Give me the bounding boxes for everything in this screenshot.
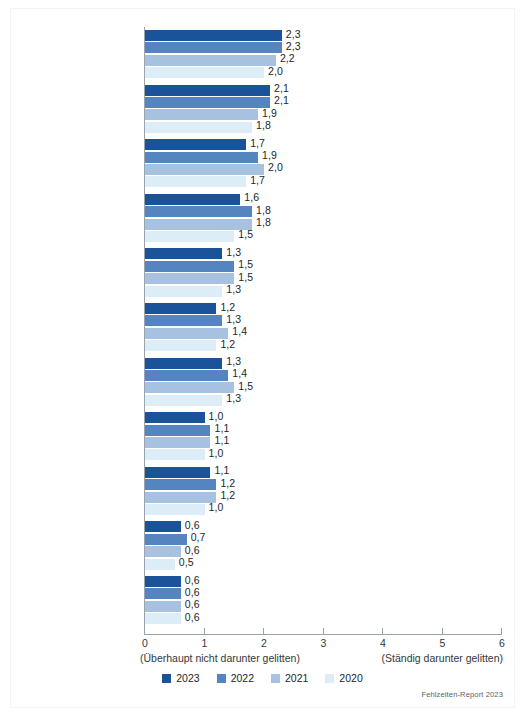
bar-row: 0,5 bbox=[145, 559, 502, 570]
bar-value-label: 1,7 bbox=[250, 137, 265, 149]
bar-value-label: 1,2 bbox=[220, 301, 235, 313]
bar-value-label: 1,5 bbox=[238, 380, 253, 392]
bar-2022 bbox=[145, 206, 252, 217]
bar-chart-plot: 0123456 Erschöpfung2,32,32,22,0Wut und V… bbox=[0, 0, 525, 719]
bar-2023 bbox=[145, 521, 181, 532]
x-tick-0 bbox=[144, 628, 145, 635]
bar-value-label: 2,3 bbox=[286, 40, 301, 52]
bar-2021 bbox=[145, 55, 276, 66]
bar-value-label: 1,3 bbox=[226, 283, 241, 295]
bar-row: 1,0 bbox=[145, 412, 502, 423]
legend-swatch-icon bbox=[271, 674, 280, 683]
bar-value-label: 1,8 bbox=[256, 216, 271, 228]
legend-swatch-icon bbox=[217, 674, 226, 683]
bar-value-label: 0,6 bbox=[185, 519, 200, 531]
bar-2023 bbox=[145, 30, 282, 41]
bar-2021 bbox=[145, 437, 210, 448]
bar-2020 bbox=[145, 559, 175, 570]
bar-row: 1,2 bbox=[145, 492, 502, 503]
bar-2020 bbox=[145, 122, 252, 133]
bar-value-label: 0,6 bbox=[185, 586, 200, 598]
legend-item-2021[interactable]: 2021 bbox=[271, 672, 308, 684]
bar-2020 bbox=[145, 449, 205, 460]
bar-row: 2,0 bbox=[145, 164, 502, 175]
bar-row: 1,1 bbox=[145, 437, 502, 448]
bar-2021 bbox=[145, 601, 181, 612]
bar-2023 bbox=[145, 194, 240, 205]
bar-row: 2,1 bbox=[145, 97, 502, 108]
bar-value-label: 1,9 bbox=[262, 107, 277, 119]
bar-value-label: 1,4 bbox=[232, 367, 247, 379]
bar-2023 bbox=[145, 412, 205, 423]
bar-row: 1,3 bbox=[145, 315, 502, 326]
bar-2021 bbox=[145, 273, 234, 284]
x-tick-label-0: 0 bbox=[142, 637, 148, 649]
legend-label: 2021 bbox=[285, 672, 308, 684]
bar-group: Nervosität und Reizbarkeit1,61,81,81,5 bbox=[145, 194, 502, 244]
bar-value-label: 0,6 bbox=[185, 611, 200, 623]
bar-2021 bbox=[145, 219, 252, 230]
bar-row: 1,1 bbox=[145, 467, 502, 478]
bar-row: 1,3 bbox=[145, 358, 502, 369]
bar-value-label: 1,5 bbox=[238, 258, 253, 270]
bar-row: 1,1 bbox=[145, 425, 502, 436]
chart-figure: 0123456 Erschöpfung2,32,32,22,0Wut und V… bbox=[0, 0, 525, 719]
bar-value-label: 1,1 bbox=[214, 434, 229, 446]
x-tick-label-1: 1 bbox=[202, 637, 208, 649]
bar-group: Magen-Darm- Beschwerden0,60,60,60,6 bbox=[145, 576, 502, 626]
bar-row: 1,3 bbox=[145, 286, 502, 297]
bar-group: Zweifel an den eigenen Fähigkeiten1,01,1… bbox=[145, 412, 502, 462]
bar-row: 2,0 bbox=[145, 67, 502, 78]
bar-2022 bbox=[145, 315, 222, 326]
bar-row: 0,6 bbox=[145, 546, 502, 557]
bar-group: Wut und Verärgerung2,12,11,91,8 bbox=[145, 85, 502, 135]
legend-item-2023[interactable]: 2023 bbox=[162, 672, 199, 684]
bar-value-label: 2,1 bbox=[274, 82, 289, 94]
bar-value-label: 1,0 bbox=[209, 410, 224, 422]
bar-row: 1,8 bbox=[145, 219, 502, 230]
bar-row: 1,9 bbox=[145, 109, 502, 120]
legend-label: 2020 bbox=[339, 672, 362, 684]
bar-value-label: 1,3 bbox=[226, 392, 241, 404]
bar-value-label: 0,6 bbox=[185, 598, 200, 610]
bar-2022 bbox=[145, 425, 210, 436]
bar-value-label: 1,2 bbox=[220, 489, 235, 501]
bar-2023 bbox=[145, 248, 222, 259]
bar-2020 bbox=[145, 286, 222, 297]
bar-row: 2,2 bbox=[145, 55, 502, 66]
bar-value-label: 2,1 bbox=[274, 94, 289, 106]
axis-caption-right: (Ständig darunter gelitten) bbox=[382, 652, 503, 664]
bar-value-label: 1,1 bbox=[214, 422, 229, 434]
bar-row: 2,3 bbox=[145, 30, 502, 41]
bar-value-label: 1,1 bbox=[214, 464, 229, 476]
bar-2023 bbox=[145, 85, 270, 96]
legend-item-2020[interactable]: 2020 bbox=[325, 672, 362, 684]
axis-caption-left: (Überhaupt nicht darunter gelitten) bbox=[140, 652, 300, 664]
bar-group: Angstgefühle bei und vor der Arbeit0,60,… bbox=[145, 521, 502, 571]
x-tick-label-3: 3 bbox=[321, 637, 327, 649]
bar-row: 1,2 bbox=[145, 340, 502, 351]
bar-row: 1,5 bbox=[145, 261, 502, 272]
bar-2021 bbox=[145, 109, 258, 120]
bar-2021 bbox=[145, 382, 234, 393]
legend-item-2022[interactable]: 2022 bbox=[217, 672, 254, 684]
bar-2023 bbox=[145, 467, 210, 478]
bar-2022 bbox=[145, 479, 216, 490]
legend-swatch-icon bbox=[325, 674, 334, 683]
x-tick-1 bbox=[204, 628, 205, 635]
bar-value-label: 0,6 bbox=[185, 544, 200, 556]
chart-legend: 2023202220212020 bbox=[0, 672, 525, 684]
bar-value-label: 2,0 bbox=[268, 65, 283, 77]
bar-group: Niedergeschlagenheit1,31,51,51,3 bbox=[145, 248, 502, 298]
bar-row: 1,9 bbox=[145, 152, 502, 163]
bar-row: 1,2 bbox=[145, 303, 502, 314]
bar-value-label: 1,5 bbox=[238, 228, 253, 240]
bar-2022 bbox=[145, 370, 228, 381]
bar-row: 1,0 bbox=[145, 449, 502, 460]
bar-2020 bbox=[145, 176, 246, 187]
bar-2023 bbox=[145, 139, 246, 150]
bar-value-label: 2,2 bbox=[280, 52, 295, 64]
bar-2021 bbox=[145, 546, 181, 557]
bar-value-label: 1,3 bbox=[226, 355, 241, 367]
x-tick-label-4: 4 bbox=[380, 637, 386, 649]
